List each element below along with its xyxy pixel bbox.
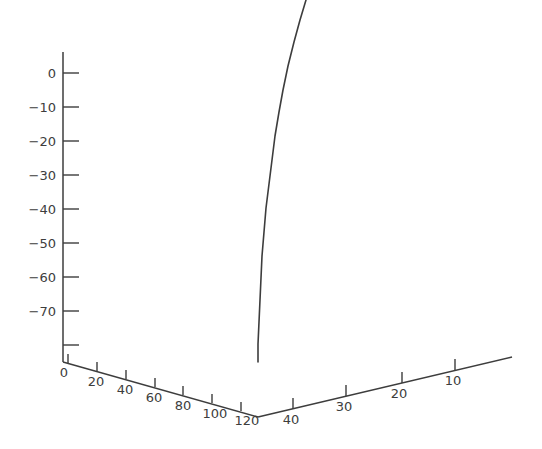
right-tick-label-20: 20 (391, 386, 408, 401)
right-tick-label-40: 40 (283, 412, 300, 427)
left-tick-label-120: 120 (235, 413, 260, 428)
left-tick-label-20: 20 (88, 374, 105, 389)
vertical-axis-tick-labels: 0 −10 −20 −30 −40 −50 −60 −70 (29, 66, 56, 319)
right-axis-ticks (293, 359, 455, 409)
right-tick-label-10: 10 (445, 373, 462, 388)
left-tick-label-40: 40 (117, 382, 134, 397)
vertical-tick-label-60: −60 (29, 270, 56, 285)
vertical-tick-label-20: −20 (29, 134, 56, 149)
right-axis-line (258, 357, 512, 417)
vertical-tick-label-0: 0 (48, 66, 56, 81)
three-d-plot: 0 −10 −20 −30 −40 −50 −60 −70 0 20 40 60 (0, 0, 542, 449)
left-axis-tick-labels: 0 20 40 60 80 100 120 (60, 365, 260, 428)
right-tick-label-30: 30 (336, 399, 353, 414)
vertical-tick-label-70: −70 (29, 304, 56, 319)
left-tick-label-0: 0 (60, 365, 68, 380)
left-tick-label-60: 60 (146, 390, 163, 405)
left-tick-label-100: 100 (203, 406, 228, 421)
vertical-tick-label-10: −10 (29, 100, 56, 115)
vertical-tick-label-30: −30 (29, 168, 56, 183)
left-tick-label-80: 80 (175, 398, 192, 413)
vertical-tick-label-50: −50 (29, 236, 56, 251)
vertical-tick-label-40: −40 (29, 202, 56, 217)
vertical-axis-ticks (63, 73, 79, 345)
plot-canvas: 0 −10 −20 −30 −40 −50 −60 −70 0 20 40 60 (0, 0, 542, 449)
data-curve (258, 0, 306, 362)
right-axis-tick-labels: 40 30 20 10 (283, 373, 462, 427)
